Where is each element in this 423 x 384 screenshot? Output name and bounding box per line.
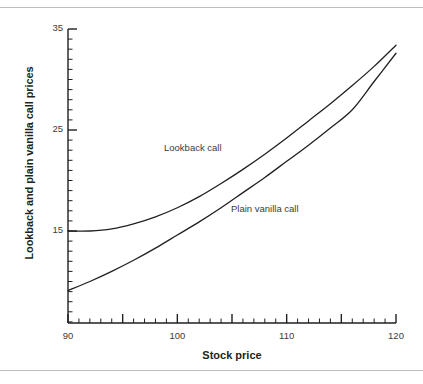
y-tick-label: 25 [37, 123, 63, 134]
x-tick-label: 90 [51, 330, 85, 341]
series-line-plain-vanilla-call [68, 53, 396, 290]
y-axis-title: Lookback and plain vanilla call prices [23, 53, 35, 273]
x-tick-label: 110 [270, 330, 304, 341]
chart-plot-area [0, 0, 423, 384]
x-tick-label: 120 [379, 330, 413, 341]
x-tick-label: 100 [160, 330, 194, 341]
lookback-call-label: Lookback call [164, 142, 222, 153]
plain-vanilla-call-label: Plain vanilla call [231, 203, 299, 214]
y-tick-label: 15 [37, 224, 63, 235]
figure-container: Lookback and plain vanilla call prices S… [0, 0, 423, 384]
x-axis-title: Stock price [68, 349, 396, 361]
y-tick-label: 35 [37, 22, 63, 33]
series-group [68, 45, 396, 290]
